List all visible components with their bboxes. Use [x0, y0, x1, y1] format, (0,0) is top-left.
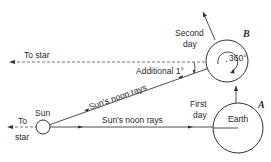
noon-rays-horizontal-label: Sun's noon rays	[102, 115, 163, 125]
second-day-label-line2: day	[183, 39, 197, 49]
second-day-label-line1: Second	[175, 28, 204, 38]
point-a-label: A	[257, 99, 265, 110]
ray-arrow-icon	[188, 126, 193, 129]
arrow-left-icon	[7, 125, 13, 129]
to-star-dashed-line-top	[9, 60, 225, 64]
ray-arrow-icon	[78, 126, 83, 129]
to-star-label-top: To star	[24, 50, 50, 60]
arrow-left-icon	[9, 60, 15, 64]
sun-label: Sun	[35, 108, 50, 118]
earth-label: Earth	[228, 114, 249, 124]
sun-circle	[36, 120, 50, 134]
solar-sidereal-day-diagram: To star To star Sun Sun's noon rays Sun'…	[0, 0, 271, 162]
orbit-arrow-b-onward	[203, 12, 215, 40]
point-b-label: B	[242, 28, 250, 39]
to-star-label-left-line1: To	[18, 116, 27, 126]
first-day-label-line1: First	[190, 99, 207, 109]
rotation-360-label: 360°	[229, 53, 247, 63]
first-day-label-line2: day	[193, 110, 207, 120]
to-star-label-left-line2: star	[15, 132, 29, 142]
noon-rays-slanted-label: Sun's noon rays	[87, 82, 148, 112]
additional-1-degree-label: Additional 1°	[136, 66, 184, 76]
